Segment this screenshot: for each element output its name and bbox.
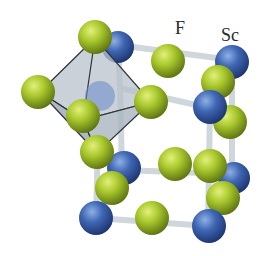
fluorine-atom <box>151 44 185 78</box>
fluorine-atom <box>95 171 129 205</box>
fluorine-atom <box>66 99 100 133</box>
scandium-atom <box>79 201 113 235</box>
fluorine-atom <box>135 201 169 235</box>
scandium-atom <box>192 209 226 243</box>
fluorine-atom <box>193 149 227 183</box>
scandium-atom <box>193 90 227 124</box>
fluorine-atom <box>78 20 112 54</box>
fluorine-atom <box>158 147 192 181</box>
label-fluorine: F <box>175 19 185 37</box>
fluorine-atom <box>80 135 114 169</box>
label-scandium: Sc <box>221 26 239 44</box>
crystal-structure-diagram: F Sc <box>0 0 262 256</box>
fluorine-atom <box>21 75 55 109</box>
fluorine-atom <box>134 85 168 119</box>
